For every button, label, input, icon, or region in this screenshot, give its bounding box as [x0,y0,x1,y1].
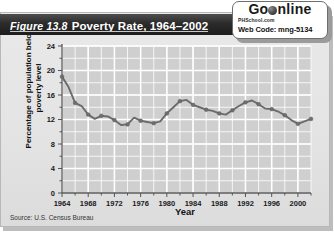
data-point-marker [152,121,156,125]
x-tick-label: 1992 [237,199,254,208]
x-tick-label: 1984 [185,199,203,208]
data-point-marker [178,99,182,103]
data-point-marker [60,75,64,79]
data-point-marker [283,113,287,117]
data-point-marker [139,119,143,123]
y-tick-label: 12 [47,115,55,124]
data-point-marker [257,102,261,106]
x-tick-label: 1988 [211,199,228,208]
figure-titlebar: Figure 13.8Poverty Rate, 1964–2002 [0,14,236,35]
title-underline [10,31,208,32]
x-tick-label: 1980 [158,199,175,208]
x-tick-label: 1996 [263,199,280,208]
x-axis-tick-labels: 1964196819721976198019841988199219962000 [54,199,307,208]
data-point-marker [217,111,221,115]
x-tick-label: 1976 [132,199,149,208]
x-tick-label: 1972 [106,199,123,208]
data-point-marker [165,111,169,115]
online-text: nline [277,1,311,17]
data-point-marker [191,103,195,107]
data-point-marker [126,123,130,127]
data-point-marker [86,113,90,117]
figure-root: Figure 13.8Poverty Rate, 1964–2002 Gonli… [0,0,334,238]
go-text: Go [248,1,268,17]
y-tick-label: 20 [47,66,55,75]
x-tick-label: 1968 [80,199,97,208]
y-axis-tick-labels: 04812162024 [47,42,56,198]
data-point-marker [244,100,248,104]
data-point-marker [230,108,234,112]
data-point-marker [204,108,208,112]
data-point-marker [270,107,274,111]
go-online-badge[interactable]: Gonline PHSchool.com Web Code: mng-5134 [232,1,328,39]
go-online-brand: Gonline [233,2,327,17]
data-point-marker [113,118,117,122]
x-tick-label: 2000 [290,199,307,208]
web-code-label: Web Code: mng-5134 [238,25,312,34]
data-point-marker [296,122,300,126]
y-tick-label: 24 [47,42,56,51]
data-point-marker [309,117,313,121]
y-tick-label: 8 [51,140,55,149]
phschool-site-label[interactable]: PHSchool.com [238,17,274,23]
data-point-marker [99,114,103,118]
y-tick-label: 4 [51,164,56,173]
y-tick-label: 16 [47,91,55,100]
y-tick-label: 0 [51,189,55,198]
data-point-marker [73,101,77,105]
x-tick-label: 1964 [54,199,72,208]
